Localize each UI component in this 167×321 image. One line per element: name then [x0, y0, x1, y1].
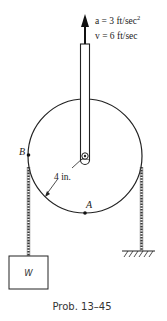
left-cord [27, 167, 30, 256]
point-b-label: B [19, 146, 25, 157]
right-cord [140, 167, 143, 251]
pulley-diagram: a = 3 ft/sec2 v = 6 ft/sec 4 in. B A W P [0, 0, 167, 321]
figure-caption: Prob. 13–45 [52, 301, 111, 312]
velocity-label: v = 6 ft/sec [95, 31, 138, 41]
support-rod [81, 44, 90, 160]
point-b-marker [27, 153, 31, 157]
ground-support-icon [122, 251, 155, 257]
point-a-label: A [85, 199, 93, 210]
radius-label: 4 in. [54, 172, 71, 182]
weight-label: W [24, 268, 33, 278]
point-a-marker [83, 211, 87, 215]
arrow-up-icon [81, 14, 89, 44]
acceleration-label: a = 3 ft/sec2 [95, 14, 140, 26]
